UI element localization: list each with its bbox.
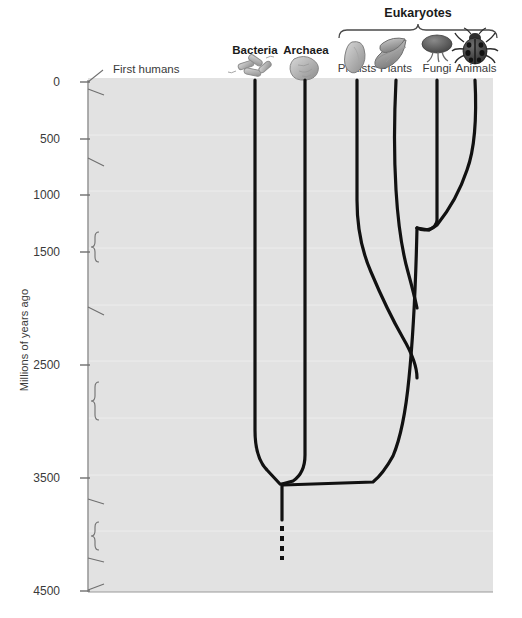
archaea-icon [290, 57, 318, 81]
timeline-canvas [0, 0, 522, 618]
protist-icon [345, 42, 366, 73]
mushroom-icon [422, 35, 452, 62]
bacteria-icon [228, 54, 274, 77]
phylogenetic-timeline-figure: Millions of years ago 0 500 1000 1500 25… [0, 0, 522, 618]
plot-background [88, 78, 493, 592]
beetle-icon [452, 28, 498, 64]
plant-leaf-icon [375, 38, 406, 68]
